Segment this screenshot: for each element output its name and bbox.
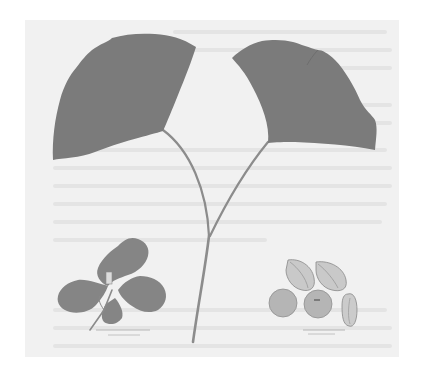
seeds-caption [303, 330, 345, 334]
seed-split-right [316, 262, 346, 291]
right-leaf [232, 40, 377, 150]
sprig-caption [96, 330, 150, 335]
main-stem [163, 130, 268, 342]
seeds [269, 260, 357, 327]
seed-split-left [286, 260, 314, 291]
ginkgo-illustration [0, 0, 424, 378]
seed-round-left [269, 289, 297, 317]
seed-round-middle [304, 290, 332, 318]
leaf-sprig [58, 238, 166, 330]
